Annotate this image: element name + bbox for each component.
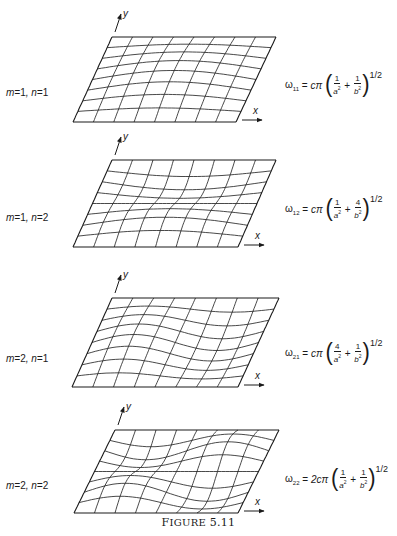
mode-panel-m1-n2 — [73, 137, 276, 247]
mode-panel-m2-n2 — [74, 407, 279, 513]
mesh-line — [93, 71, 257, 80]
figure-caption: FIGURE 5.11 — [0, 516, 397, 529]
y-axis-arrow-icon — [115, 14, 121, 32]
mode-label-m2-n2: m=2, n=2 — [6, 480, 48, 491]
mesh-line — [216, 37, 256, 122]
frequency-formula-11: ω11 = cπ ( 1a2 + 1b2 )1/2 — [285, 74, 382, 96]
mesh-line — [155, 298, 196, 387]
membrane-edge — [72, 298, 112, 387]
frequency-formula-21: ω21 = cπ ( 4a2 + 1b2 )1/2 — [285, 342, 382, 364]
x-axis-label: x — [255, 496, 260, 507]
y-axis-label: y — [126, 401, 131, 412]
mode-panel-m2-n1 — [72, 275, 279, 387]
x-axis-label: x — [255, 370, 260, 381]
y-axis-arrow-icon — [115, 275, 121, 293]
mesh-line — [97, 61, 261, 69]
y-axis-label: y — [123, 8, 128, 19]
mesh-line — [88, 82, 251, 90]
mode-label-m2-n1: m=2, n=1 — [6, 353, 48, 364]
y-axis-label: y — [123, 131, 128, 142]
y-axis-arrow-icon — [115, 137, 121, 155]
mesh-line — [97, 193, 261, 199]
frequency-formula-22: ω22 = 2cπ ( 1a2 + 1b2 )1/2 — [285, 468, 388, 490]
frequency-formula-12: ω12 = cπ ( 1a2 + 4b2 )1/2 — [285, 198, 382, 220]
y-axis-arrow-icon — [118, 407, 124, 425]
mode-panel-m1-n1 — [73, 14, 276, 122]
mode-label-m1-n2: m=1, n=2 — [6, 212, 48, 223]
x-axis-label: x — [253, 105, 258, 116]
mesh-line — [155, 37, 195, 122]
mesh-line — [88, 209, 253, 215]
y-axis-label: y — [123, 269, 128, 280]
mesh-line — [134, 37, 173, 122]
mesh-line — [102, 182, 266, 190]
mesh-line — [83, 217, 248, 225]
mode-label-m1-n1: m=1, n=1 — [6, 87, 48, 98]
mesh-line — [102, 52, 266, 58]
x-axis-label: x — [255, 230, 260, 241]
